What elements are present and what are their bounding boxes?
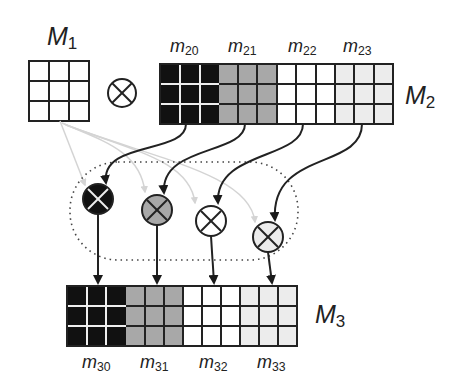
matrix-m3 [67, 286, 297, 346]
label-m20: m20 [170, 36, 199, 58]
label-m23: m23 [343, 36, 372, 58]
multiplier-2-icon [196, 206, 226, 236]
multiplier-3-icon [253, 222, 283, 252]
matrix-m1 [29, 61, 89, 121]
label-m30: m30 [82, 352, 111, 374]
label-m32: m32 [199, 352, 228, 374]
label-m22: m22 [288, 36, 317, 58]
label-m2: M2 [405, 81, 435, 113]
multiplier-to-m3-arrows [98, 214, 272, 283]
label-m31: m31 [140, 352, 169, 374]
multiplier-1-icon [142, 195, 172, 225]
circled-times-operator-icon [108, 79, 136, 107]
label-m3: M3 [315, 300, 345, 332]
label-m33: m33 [257, 352, 286, 374]
multiplier-0-icon [83, 184, 113, 214]
matrix-m2 [160, 64, 393, 124]
label-m1: M1 [47, 22, 77, 54]
label-m21: m21 [228, 36, 257, 58]
